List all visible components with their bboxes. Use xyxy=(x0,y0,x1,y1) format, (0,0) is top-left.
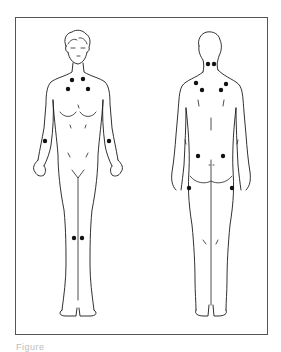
tender-point-anterior-second-rib-right xyxy=(86,87,90,91)
body-figures xyxy=(0,0,281,352)
back-body-figure xyxy=(172,32,251,316)
tender-point-anterior-second-rib-left xyxy=(66,87,70,91)
tender-point-posterior-occiput-left xyxy=(206,62,210,66)
tender-point-posterior-trapezius-right xyxy=(224,82,228,86)
tender-points xyxy=(43,62,234,240)
tender-point-anterior-lateral-epicondyle-left xyxy=(43,139,47,143)
tender-point-anterior-lower-neck-left xyxy=(70,78,74,82)
tender-point-anterior-knee-right xyxy=(80,236,84,240)
tender-point-anterior-knee-left xyxy=(72,236,76,240)
tender-point-posterior-greater-trochanter-right xyxy=(230,186,234,190)
tender-point-posterior-supraspinatus-left xyxy=(200,88,204,92)
front-body-figure xyxy=(34,30,123,316)
tender-point-posterior-gluteal-right xyxy=(221,154,225,158)
tender-point-posterior-gluteal-left xyxy=(196,154,200,158)
tender-point-posterior-greater-trochanter-left xyxy=(187,186,191,190)
tender-point-posterior-trapezius-left xyxy=(194,81,198,85)
tender-point-anterior-lateral-epicondyle-right xyxy=(107,139,111,143)
tender-point-anterior-lower-neck-right xyxy=(81,77,85,81)
figure-caption: Figure xyxy=(16,342,45,352)
tender-point-posterior-supraspinatus-right xyxy=(219,88,223,92)
tender-point-posterior-occiput-right xyxy=(212,62,216,66)
